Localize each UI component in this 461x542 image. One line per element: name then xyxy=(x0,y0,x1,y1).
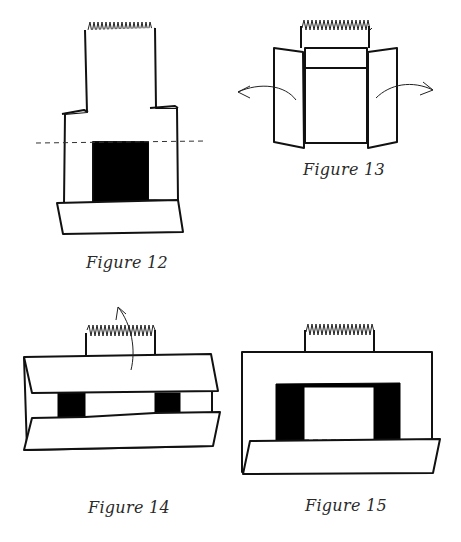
black-square-left xyxy=(58,393,85,417)
caption-figure-15: Figure 15 xyxy=(305,496,387,515)
black-square xyxy=(94,143,148,202)
bottom-flap xyxy=(24,412,220,450)
top-flap xyxy=(24,354,218,393)
diagram-canvas xyxy=(0,0,461,542)
spring-icon xyxy=(302,20,372,30)
left-flap xyxy=(274,48,304,148)
caption-figure-12: Figure 12 xyxy=(86,253,168,272)
figure-13-drawing xyxy=(238,20,433,148)
bottom-flap xyxy=(57,200,183,234)
figure-14-drawing xyxy=(24,307,220,450)
spring-icon xyxy=(87,325,155,336)
right-flap xyxy=(368,48,397,148)
caption-figure-14: Figure 14 xyxy=(88,498,170,517)
caption-figure-13: Figure 13 xyxy=(303,160,385,179)
spring-icon xyxy=(306,324,374,335)
figure-12-drawing xyxy=(36,22,206,234)
figure-15-drawing xyxy=(242,324,440,474)
bottom-flap xyxy=(243,439,440,474)
